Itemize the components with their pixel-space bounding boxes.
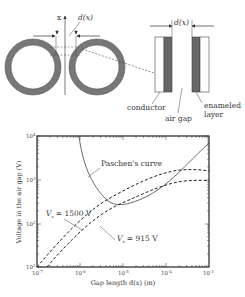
- y-axis-title: Voltage in the air gap (V): [15, 160, 23, 244]
- inset-gap-label: d(x): [174, 18, 189, 27]
- right-enamel: [192, 37, 200, 92]
- left-wire: [8, 42, 58, 92]
- y-tick-10e1: 101: [26, 263, 36, 271]
- y-tick-10e3: 103: [26, 176, 36, 184]
- left-conductor: [155, 37, 164, 92]
- enameled-label: enameled: [204, 101, 241, 110]
- x-axis-label: x: [57, 13, 62, 22]
- x-tick-10e-3: 10-3: [203, 269, 214, 277]
- paschen-chart: 104 103 102 101 10-7 10-6 10-5 10-4 10-3…: [15, 132, 214, 288]
- paschen-curve: [79, 136, 209, 205]
- wire-cross-section-diagram: x d(x): [5, 13, 154, 95]
- paschen-label: Paschen's curve: [101, 159, 162, 168]
- x-tick-10e-6: 10-6: [75, 269, 86, 277]
- gap-label: d(x): [78, 13, 93, 22]
- right-conductor: [200, 37, 209, 92]
- right-wire: [72, 42, 122, 92]
- left-enamel: [164, 37, 172, 92]
- y-ticks: [37, 136, 209, 267]
- air-gap-label: air gap: [165, 114, 192, 123]
- conductor-label: conductor: [127, 103, 166, 112]
- plot-frame: [37, 136, 209, 267]
- gap-inset-diagram: d(x) conductor air gap enameled layer: [127, 18, 241, 123]
- vs-1500-label: Vs = 1500 V: [46, 209, 92, 219]
- x-axis-title: Gap length d(x) (m): [91, 279, 156, 287]
- x-tick-10e-4: 10-4: [161, 269, 172, 277]
- x-tick-10e-7: 10-7: [32, 269, 43, 277]
- layer-label: layer: [204, 110, 224, 119]
- y-tick-10e2: 102: [26, 220, 36, 228]
- figure: x d(x) d(x) conductor air gap ename: [0, 0, 245, 297]
- y-tick-10e4: 104: [26, 132, 36, 140]
- x-ticks: [50, 136, 207, 267]
- x-tick-10e-5: 10-5: [118, 269, 129, 277]
- vs-915-label: Vs = 915 V: [117, 234, 158, 244]
- vs-1500-curve: [37, 170, 209, 267]
